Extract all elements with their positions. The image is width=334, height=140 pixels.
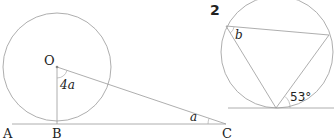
figure-1: O 4a a A B C: [2, 13, 232, 140]
label-c: C: [222, 126, 232, 140]
figure-number: 2: [210, 2, 220, 18]
label-o: O: [44, 53, 55, 68]
line-oc: [57, 67, 226, 124]
angle-arc-o: [57, 71, 67, 79]
angle-arc-c: [208, 118, 209, 124]
center-point-o: [56, 66, 59, 69]
label-b: B: [52, 126, 62, 140]
figure-2: 2 b 53°: [210, 0, 334, 108]
label-angle-a: a: [190, 110, 197, 124]
label-angle-53: 53°: [290, 90, 311, 104]
angle-arc-b: [230, 27, 234, 33]
label-angle-4a: 4a: [59, 78, 75, 92]
label-a: A: [2, 126, 13, 140]
label-angle-b: b: [235, 28, 243, 42]
circle-2: [221, 0, 333, 108]
geometry-diagram: O 4a a A B C 2 b 53°: [0, 0, 334, 140]
